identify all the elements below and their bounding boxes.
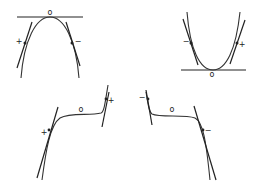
tangent-point bbox=[71, 42, 74, 45]
slope-label-negative: − bbox=[183, 38, 190, 46]
slope-label-positive: + bbox=[108, 97, 115, 105]
slope-label-zero: o bbox=[48, 9, 53, 17]
slope-label-negative: − bbox=[139, 94, 146, 102]
slope-label-positive: + bbox=[239, 41, 246, 49]
tangent-point bbox=[147, 98, 150, 101]
tangent-point bbox=[48, 129, 51, 132]
left-tangent-line bbox=[146, 90, 152, 125]
left-tangent-line bbox=[37, 107, 58, 178]
tangent-point bbox=[24, 42, 27, 45]
slope-label-negative: − bbox=[75, 38, 82, 46]
panel-concave-down bbox=[17, 17, 83, 78]
slope-label-zero: o bbox=[79, 106, 84, 114]
slope-label-zero: o bbox=[210, 71, 215, 79]
cubic-curve bbox=[42, 85, 108, 180]
panel-decreasing-cubic bbox=[146, 90, 216, 180]
cubic-curve bbox=[146, 92, 210, 180]
diagram-canvas bbox=[0, 0, 259, 191]
panel-increasing-cubic bbox=[37, 85, 109, 180]
parabola-curve bbox=[21, 17, 79, 78]
slope-label-zero: o bbox=[170, 106, 175, 114]
right-tangent-line bbox=[194, 106, 216, 180]
slope-label-positive: + bbox=[16, 38, 23, 46]
tangent-point bbox=[190, 42, 193, 45]
slope-label-positive: + bbox=[41, 129, 48, 137]
slope-label-negative: − bbox=[205, 127, 212, 135]
panel-concave-up bbox=[181, 12, 246, 70]
parabola-curve bbox=[187, 12, 240, 70]
